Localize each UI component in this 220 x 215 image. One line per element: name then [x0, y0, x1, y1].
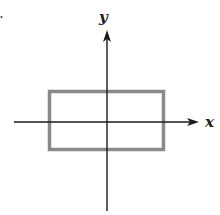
coordinate-diagram: x y — [0, 0, 220, 215]
y-axis-label: y — [98, 8, 109, 26]
stray-dot — [1, 16, 3, 18]
x-axis-label: x — [204, 113, 215, 131]
